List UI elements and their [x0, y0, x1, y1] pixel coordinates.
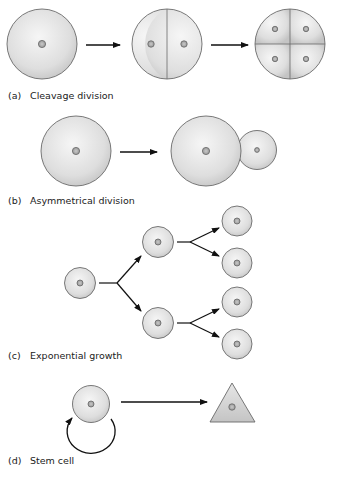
panel-b-title: Asymmetrical division [30, 195, 135, 206]
panel-c-title: Exponential growth [30, 350, 122, 361]
four-cell-stage [255, 9, 325, 79]
branch-arrows-gen2 [177, 228, 219, 337]
generation-1-cells [143, 227, 174, 339]
panel-b-asymmetrical [41, 116, 277, 186]
small-daughter-cell [238, 131, 277, 170]
panel-b-caption: (b)Asymmetrical division [8, 195, 135, 206]
panel-c-caption: (c)Exponential growth [8, 350, 122, 361]
panel-d-tag: (d) [8, 455, 30, 466]
panel-b-tag: (b) [8, 195, 30, 206]
panel-c-tag: (c) [8, 350, 30, 361]
two-cell-stage [110, 4, 225, 84]
panel-c-exponential [65, 206, 253, 359]
cell-division-diagram [0, 0, 337, 478]
panel-d-stem-cell [67, 383, 255, 453]
differentiated-cell-triangle [210, 383, 255, 422]
panel-d-title: Stem cell [30, 455, 74, 466]
single-cell [7, 9, 77, 79]
generation-2-cells [222, 206, 252, 359]
panel-a-tag: (a) [8, 90, 30, 101]
panel-d-caption: (d)Stem cell [8, 455, 74, 466]
stem-cell [73, 386, 110, 423]
panel-a-cleavage [7, 4, 325, 84]
self-renewal-loop-arrow [67, 418, 115, 453]
branch-arrows-gen1 [99, 256, 141, 311]
parent-cell [41, 116, 111, 186]
generation-0-cell [65, 268, 96, 299]
panel-a-title: Cleavage division [30, 90, 114, 101]
panel-a-caption: (a)Cleavage division [8, 90, 114, 101]
large-daughter-cell [171, 116, 241, 186]
